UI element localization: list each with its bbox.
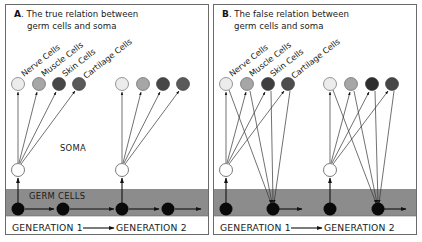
soma-label: SOMA [60, 143, 86, 153]
germ-cell [162, 203, 175, 216]
skin-cell [157, 78, 170, 91]
nerve-cell [116, 78, 129, 91]
cartilage-cell [386, 78, 399, 91]
germ-cell [372, 203, 385, 216]
generation-1-label: GENERATION 1 [12, 222, 83, 233]
muscle-cell [137, 78, 150, 91]
generation-2-label: GENERATION 2 [116, 222, 187, 233]
soma-stem-cell [324, 164, 337, 177]
germ-cell [12, 203, 25, 216]
germ-cell [267, 203, 280, 216]
skin-cell [262, 78, 275, 91]
germ-cell [116, 203, 129, 216]
cartilage-cell [282, 78, 295, 91]
soma-stem-cell [12, 164, 25, 177]
muscle-cell [345, 78, 358, 91]
nerve-cell [12, 78, 25, 91]
cartilage-cell [177, 78, 190, 91]
weismann-barrier-diagram: A. The true relation between germ cells … [0, 0, 422, 242]
panel-b-content: B. The false relation between germ cells… [214, 9, 416, 233]
generation-1-label: GENERATION 1 [220, 222, 291, 233]
skin-cell [366, 78, 379, 91]
soma-stem-cell [220, 164, 233, 177]
nerve-cell [220, 78, 233, 91]
panel-a-letter: A [14, 9, 21, 19]
germ-band [214, 189, 416, 216]
generation-2-label: GENERATION 2 [324, 222, 395, 233]
panel-a-title-line2: germ cells and soma [27, 21, 117, 31]
soma-stem-cell [116, 164, 129, 177]
muscle-cell [241, 78, 254, 91]
panel-a-title: A. The true relation between [14, 9, 138, 19]
nerve-cell [324, 78, 337, 91]
germ-cell [220, 203, 233, 216]
germ-cells-label: GERM CELLS [29, 191, 85, 201]
panel-a-content: A. The true relation between germ cells … [6, 9, 208, 233]
germ-cell [57, 203, 70, 216]
cartilage-cell [73, 78, 86, 91]
panel-b-title: B. The false relation between [222, 9, 349, 19]
germ-cell [324, 203, 337, 216]
muscle-cell [33, 78, 46, 91]
skin-cell [53, 78, 66, 91]
panel-b-title-line2: germ cells and soma [234, 21, 324, 31]
